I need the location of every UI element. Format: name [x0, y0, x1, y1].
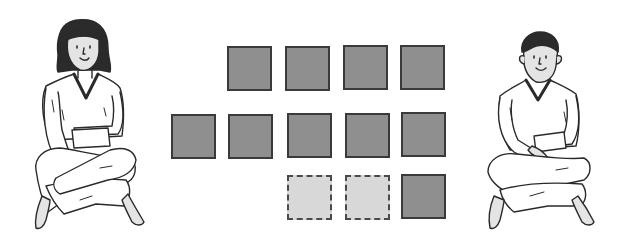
solid-square [171, 114, 216, 159]
solid-square [285, 46, 330, 91]
solid-square [287, 113, 332, 158]
solid-square [401, 112, 446, 157]
boy-illustration [460, 0, 630, 246]
solid-square [343, 45, 388, 90]
solid-square [345, 113, 390, 158]
dashed-square [345, 175, 390, 220]
solid-square [401, 174, 446, 219]
dashed-square [287, 175, 332, 220]
solid-square [400, 45, 445, 90]
solid-square [227, 46, 272, 91]
solid-square [228, 114, 273, 159]
boy-figure [460, 0, 630, 246]
